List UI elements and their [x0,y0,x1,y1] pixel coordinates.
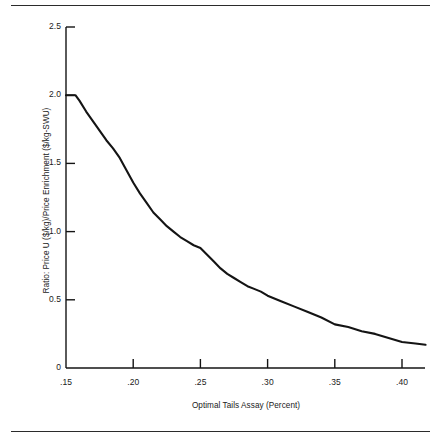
x-axis-tick-label: .30 [262,378,274,387]
y-axis-tick-label: 0 [34,363,61,372]
figure-container: 00.51.01.52.02.5 .15.20.25.30.35.40 Rati… [0,0,441,437]
x-axis-tick-label: .20 [127,378,139,387]
x-axis-tick-label: .25 [194,378,206,387]
line-chart-plot [0,0,441,437]
y-axis-ticks [66,27,75,368]
y-axis-tick-label: 2.5 [34,22,61,31]
data-series-line [66,95,426,345]
x-axis-tick-label: .15 [60,378,72,387]
axis-lines [66,27,425,368]
x-axis-tick-label: .40 [396,378,408,387]
x-axis-tick-label: .35 [329,378,341,387]
x-axis-ticks [66,359,402,368]
y-axis-title: Ratio: Price U ($/kg)/Price Enrichment (… [42,75,51,327]
x-axis-title: Optimal Tails Assay (Percent) [66,401,426,410]
